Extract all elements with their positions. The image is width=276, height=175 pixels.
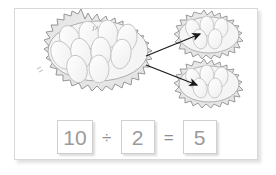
egg-nest-illustration <box>15 9 259 117</box>
division-equation: 10 ÷ 2 = 5 <box>15 113 259 161</box>
divide-icon: ÷ <box>99 129 115 146</box>
small-nest-top <box>174 10 243 59</box>
dividend-box[interactable]: 10 <box>57 120 92 154</box>
quotient-box[interactable]: 5 <box>183 120 217 154</box>
screenshot-root: 10 ÷ 2 = 5 <box>0 0 276 175</box>
big-nest <box>37 9 152 91</box>
equals-icon: = <box>161 129 177 146</box>
divisor-box[interactable]: 2 <box>121 120 155 154</box>
worksheet-card: 10 ÷ 2 = 5 <box>14 8 258 160</box>
small-nest-bottom <box>174 59 243 108</box>
